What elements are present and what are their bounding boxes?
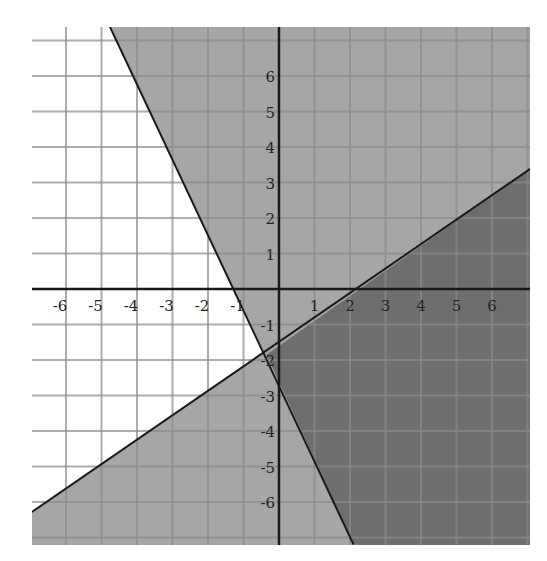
- x-tick-label: -6: [53, 297, 68, 315]
- x-tick-label: -5: [88, 297, 103, 315]
- inequality-graph: -6-5-4-3-2-1123456654321-1-2-3-4-5-6: [0, 0, 547, 561]
- x-tick-label: 3: [381, 297, 391, 315]
- x-tick-label: 5: [452, 297, 462, 315]
- y-tick-label: 6: [265, 68, 275, 86]
- x-tick-label: 1: [310, 297, 320, 315]
- x-tick-label: 4: [416, 297, 426, 315]
- y-tick-label: -4: [260, 423, 275, 441]
- x-tick-label: 2: [345, 297, 355, 315]
- x-tick-label: 6: [487, 297, 497, 315]
- y-tick-label: -3: [260, 388, 275, 406]
- x-tick-label: -2: [195, 297, 210, 315]
- y-tick-label: 5: [265, 104, 275, 122]
- y-tick-label: -5: [260, 459, 275, 477]
- y-tick-label: 4: [265, 139, 275, 157]
- x-tick-label: -1: [230, 297, 245, 315]
- y-tick-label: 1: [265, 246, 275, 264]
- y-tick-label: -6: [260, 494, 275, 512]
- x-tick-label: -3: [159, 297, 174, 315]
- y-tick-label: 2: [265, 210, 275, 228]
- y-tick-label: -2: [260, 352, 275, 370]
- y-tick-label: -1: [260, 317, 275, 335]
- y-tick-label: 3: [265, 175, 275, 193]
- shading-group: [22, 17, 540, 555]
- x-tick-label: -4: [124, 297, 139, 315]
